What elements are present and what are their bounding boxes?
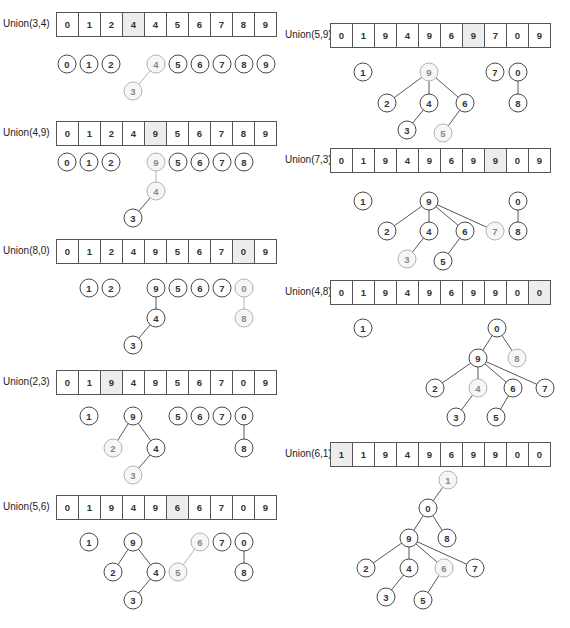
tree-node: 7 (466, 559, 484, 577)
tree-edge (433, 487, 443, 500)
svg-text:9: 9 (406, 533, 411, 544)
svg-text:8: 8 (444, 533, 449, 544)
svg-text:1: 1 (445, 475, 451, 486)
svg-text:6: 6 (441, 563, 446, 574)
tree-node: 8 (438, 529, 456, 547)
svg-text:2: 2 (363, 563, 368, 574)
tree-node: 4 (400, 559, 418, 577)
svg-text:4: 4 (406, 563, 412, 574)
svg-text:3: 3 (383, 592, 388, 603)
tree-node: 0 (419, 499, 437, 517)
tree-node: 2 (357, 559, 375, 577)
forest: 1098246735 (0, 0, 570, 628)
tree-edge (373, 543, 401, 563)
tree-node: 3 (377, 588, 395, 606)
svg-text:7: 7 (472, 563, 477, 574)
tree-node: 1 (439, 471, 457, 489)
tree-node: 6 (435, 559, 453, 577)
svg-text:0: 0 (425, 503, 430, 514)
tree-edge (416, 544, 437, 562)
tree-node: 5 (414, 591, 432, 609)
tree-edge (428, 576, 439, 593)
tree-edge (392, 575, 404, 590)
tree-edge (414, 516, 423, 531)
svg-text:5: 5 (420, 595, 426, 606)
tree-edge (433, 516, 442, 531)
tree-node: 9 (400, 529, 418, 547)
